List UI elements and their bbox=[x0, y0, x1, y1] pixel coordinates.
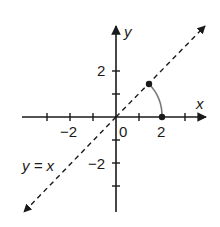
coordinate-diagram: y x 2 −2 −2 0 2 y = x bbox=[0, 0, 220, 227]
line-equation-label: y = x bbox=[21, 157, 55, 174]
y-tick-label-2: 2 bbox=[97, 62, 105, 79]
x-axis-label: x bbox=[195, 95, 204, 112]
point-on-line bbox=[146, 81, 152, 87]
y-axis-label: y bbox=[123, 23, 133, 40]
x-tick-label-0: 0 bbox=[119, 123, 127, 140]
x-tick-label-2: 2 bbox=[157, 123, 165, 140]
arc bbox=[149, 84, 162, 117]
point-on-x-axis bbox=[159, 114, 165, 120]
x-tick-label-neg2: −2 bbox=[60, 123, 77, 140]
y-tick-label-neg2: −2 bbox=[88, 155, 105, 172]
